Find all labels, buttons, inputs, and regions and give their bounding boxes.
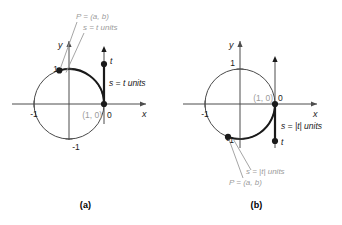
annotation-p-equals-ab-b: P = (a, b): [229, 178, 262, 187]
point-terminal-t-b: [272, 138, 278, 144]
y-axis-label-a: y: [57, 40, 63, 50]
figure-container: P = (a, b) s = t units s = t units x y 1…: [0, 0, 342, 225]
panel-a: P = (a, b) s = t units s = t units x y 1…: [0, 0, 171, 225]
annotation-p-equals-ab-a: P = (a, b): [76, 12, 109, 21]
annotation-s-equals-abs-t-units-black-b: s = |t| units: [281, 121, 323, 131]
annotation-s-equals-t-units-gray-a: s = t units: [83, 23, 117, 32]
point-terminal-t-a: [101, 61, 107, 67]
x-tick-label-negative-a: -1: [30, 109, 38, 119]
label-tangent-point-a: (1, 0): [82, 110, 102, 120]
highlighted-arc-b: [228, 104, 275, 139]
label-origin-zero-b: 0: [278, 93, 283, 103]
y-tick-label-negative-b: -1: [226, 135, 234, 145]
point-tangent-origin-a: [101, 101, 107, 107]
x-axis-label-a: x: [141, 109, 147, 119]
y-axis-label-b: y: [228, 40, 234, 50]
panel-b: s = |t| units s = |t| units P = (a, b) x…: [171, 0, 342, 225]
leader-lines-a: [61, 22, 85, 73]
y-axis-b: [237, 41, 242, 148]
panel-b-diagram: s = |t| units s = |t| units P = (a, b) x…: [171, 0, 342, 225]
y-tick-label-positive-a: 1: [53, 64, 58, 74]
label-origin-zero-a: 0: [107, 110, 112, 120]
panel-a-caption: (a): [0, 200, 171, 210]
x-tick-label-negative-b: -1: [201, 109, 209, 119]
x-axis-a: [12, 101, 146, 106]
x-axis-label-b: x: [312, 109, 318, 119]
label-terminal-t-b: t: [281, 137, 284, 147]
label-terminal-t-a: t: [110, 56, 113, 66]
annotation-s-equals-t-units-black-a: s = t units: [109, 78, 146, 88]
panel-b-caption: (b): [171, 200, 342, 210]
y-tick-label-negative-a: -1: [72, 142, 80, 152]
y-tick-label-positive-b: 1: [230, 58, 235, 68]
highlighted-arc-a: [59, 69, 104, 104]
x-axis-b: [183, 101, 317, 106]
label-tangent-point-b: (1, 0): [253, 93, 273, 103]
panel-a-diagram: P = (a, b) s = t units s = t units x y 1…: [0, 0, 171, 225]
annotation-s-equals-abs-t-units-gray-b: s = |t| units: [246, 167, 285, 176]
y-axis-a: [66, 41, 71, 140]
